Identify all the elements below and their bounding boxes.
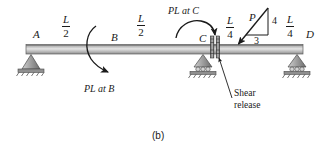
dimension-label-p-d: L 4: [286, 14, 294, 39]
dimension-label-a-b: L 2: [62, 14, 70, 39]
beam-diagram-figure: A B C D L 2 L 2 L 4 L 4 PL at B PL at C …: [0, 0, 325, 151]
moment-c-arrow: [176, 21, 215, 38]
dimension-a-b-numerator: L: [62, 14, 70, 25]
dimension-p-d-numerator: L: [286, 14, 294, 25]
dimension-label-c-p: L 4: [226, 15, 234, 40]
load-force-label: P: [249, 12, 256, 23]
dimension-c-p-denominator: 4: [226, 29, 234, 40]
beam-point-label-c: C: [199, 33, 206, 44]
dimension-a-b-denominator: 2: [62, 28, 70, 39]
beam-point-label-b: B: [111, 32, 118, 43]
shear-release-leader: [219, 58, 232, 98]
dimension-b-c-numerator: L: [137, 13, 145, 24]
beam-member: [26, 45, 303, 55]
dimension-p-d-denominator: 4: [286, 28, 294, 39]
support-d-roller: [283, 55, 311, 79]
dimension-b-c-denominator: 2: [137, 27, 145, 38]
moment-c-label: PL at C: [168, 6, 199, 16]
slope-vertical-label: 4: [272, 16, 277, 26]
shear-release-annotation-line2: release: [234, 100, 260, 111]
shear-release-annotation-line1: Shear: [234, 88, 256, 99]
dimension-label-b-c: L 2: [137, 13, 145, 38]
support-a-pin: [17, 55, 45, 77]
moment-b-label: PL at B: [84, 84, 114, 94]
figure-caption: (b): [152, 131, 164, 141]
dimension-c-p-numerator: L: [226, 15, 234, 26]
beam-point-label-d: D: [306, 29, 314, 40]
slope-horizontal-label: 3: [254, 36, 259, 46]
beam-point-label-a: A: [33, 29, 40, 40]
